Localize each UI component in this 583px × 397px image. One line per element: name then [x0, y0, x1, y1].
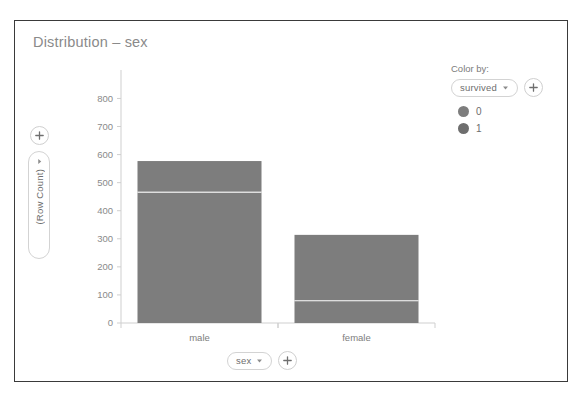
add-x-field-button[interactable]: [278, 351, 297, 370]
legend-heading: Color by:: [451, 63, 561, 74]
legend-item[interactable]: 1: [458, 123, 561, 134]
color-by-field-pill[interactable]: survived: [451, 79, 518, 97]
legend-item-list: 01: [451, 106, 561, 134]
bar-segment[interactable]: [295, 300, 419, 323]
add-y-field-button[interactable]: [30, 126, 49, 145]
legend-swatch-icon: [458, 123, 469, 134]
x-axis-controls: sex: [227, 351, 297, 370]
y-axis-tick-label: 700: [97, 121, 113, 132]
chart-card: Distribution – sex 010020030040050060070…: [14, 20, 568, 382]
chevron-down-icon: [36, 158, 43, 165]
y-axis-tick-label: 600: [97, 149, 113, 160]
plus-icon: [283, 356, 292, 365]
y-axis-tick-label: 400: [97, 205, 113, 216]
y-axis-tick-label: 800: [97, 93, 113, 104]
chevron-down-icon: [502, 84, 509, 91]
y-axis-controls: (Row Count): [26, 126, 52, 259]
y-axis-tick-label: 500: [97, 177, 113, 188]
legend-item[interactable]: 0: [458, 106, 561, 117]
y-axis-tick-label: 100: [97, 289, 113, 300]
chevron-down-icon: [256, 357, 263, 364]
x-axis-category-label: male: [189, 332, 210, 343]
bar-segment[interactable]: [138, 192, 262, 323]
legend-item-label: 1: [476, 124, 482, 134]
legend-panel: Color by: survived 01: [451, 63, 561, 134]
x-axis-category-label: female: [342, 332, 371, 343]
legend-item-label: 0: [476, 107, 482, 117]
plus-icon: [35, 131, 44, 140]
legend-swatch-icon: [458, 106, 469, 117]
y-axis-field-pill[interactable]: (Row Count): [28, 151, 50, 259]
y-axis-tick-label: 0: [108, 317, 113, 328]
bar-segment[interactable]: [295, 235, 419, 300]
legend-picker: survived: [451, 78, 561, 97]
screenshot-root: Distribution – sex 010020030040050060070…: [0, 0, 583, 397]
x-axis-field-label: sex: [236, 355, 251, 366]
plus-icon: [529, 83, 538, 92]
y-axis-field-label: (Row Count): [34, 169, 45, 225]
color-by-field-label: survived: [460, 82, 497, 93]
x-axis-field-pill[interactable]: sex: [227, 352, 272, 370]
add-color-field-button[interactable]: [524, 78, 543, 97]
bar-segment[interactable]: [138, 161, 262, 192]
y-axis-tick-label: 200: [97, 261, 113, 272]
y-axis-tick-label: 300: [97, 233, 113, 244]
